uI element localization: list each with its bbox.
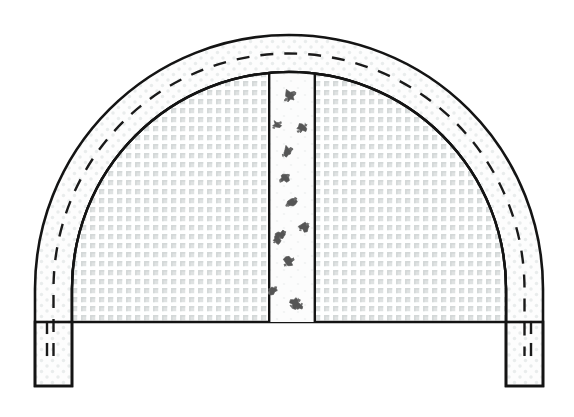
side-walls: [35, 322, 543, 386]
tunnel-cross-section-figure: Tunnel Arch Cross-Section Engineering li…: [0, 0, 574, 417]
leg-centerline-dashes: [47, 322, 531, 356]
diagram-canvas: [0, 0, 574, 417]
